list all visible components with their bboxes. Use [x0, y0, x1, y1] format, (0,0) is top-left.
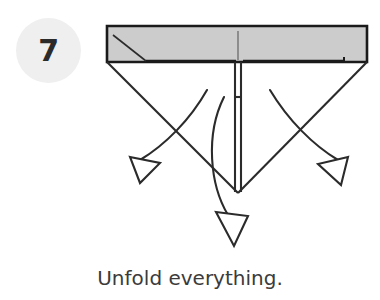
diagram-page: 7 Unfold eve — [0, 0, 380, 300]
unfold-arrow-down-shaft — [212, 97, 228, 215]
step-caption: Unfold everything. — [0, 266, 380, 290]
v-fold-left-arm — [107, 62, 238, 193]
unfold-arrow-right — [270, 90, 348, 185]
origami-diagram — [0, 0, 380, 300]
unfold-arrow-right-head — [318, 157, 348, 185]
folded-paper-band — [107, 26, 367, 62]
unfold-arrow-down-head — [216, 212, 248, 246]
unfold-arrow-left-shaft — [140, 90, 207, 160]
unfold-arrow-left-head — [130, 157, 160, 183]
v-fold-right-arm — [238, 62, 367, 193]
unfold-arrow-left — [130, 90, 207, 183]
